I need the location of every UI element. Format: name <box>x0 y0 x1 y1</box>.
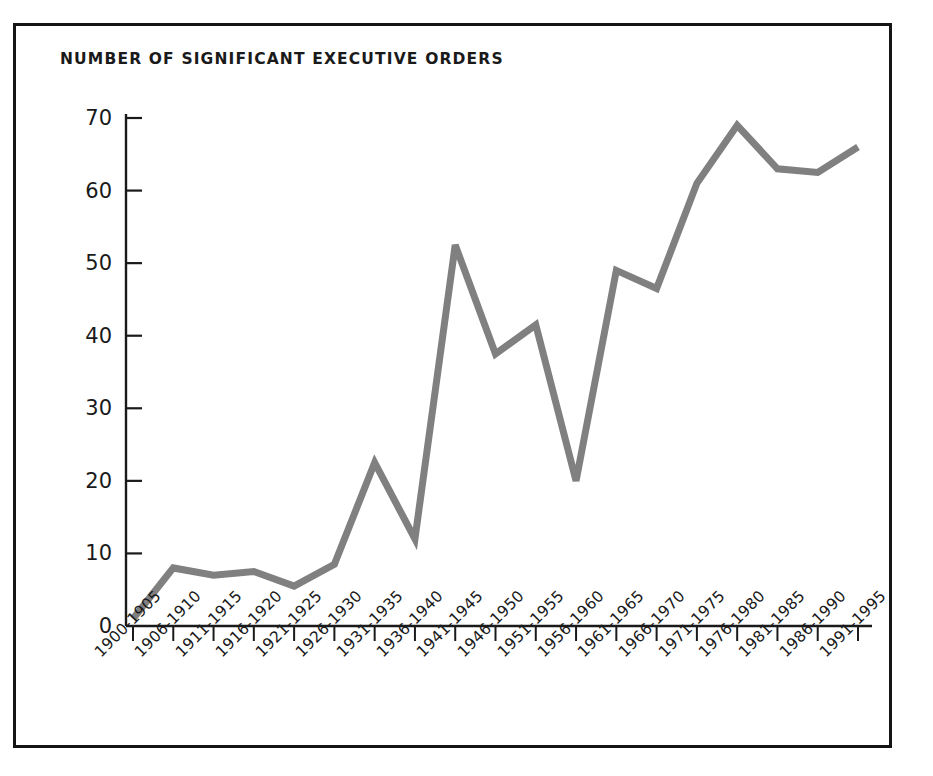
chart-title: NUMBER OF SIGNIFICANT EXECUTIVE ORDERS <box>60 50 504 68</box>
y-axis-tick-label: 60 <box>52 179 112 203</box>
y-axis-tick-label: 70 <box>52 106 112 130</box>
y-axis-tick-label: 20 <box>52 469 112 493</box>
y-axis-tick-label: 40 <box>52 324 112 348</box>
y-axis-tick-label: 10 <box>52 541 112 565</box>
y-axis-tick-label: 30 <box>52 396 112 420</box>
y-axis-tick-label: 50 <box>52 251 112 275</box>
